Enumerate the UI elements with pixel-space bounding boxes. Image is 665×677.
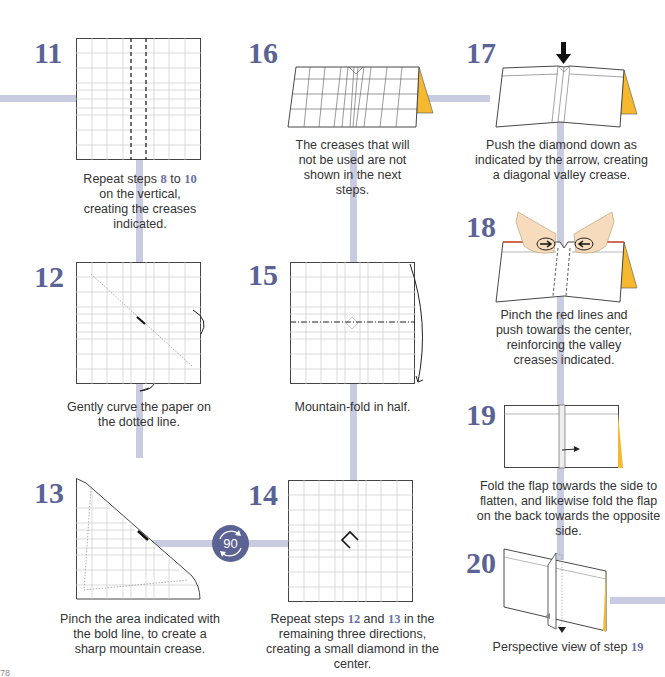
step-18-caption: Pinch the red lines and push towards the… bbox=[494, 308, 634, 368]
step-number-19: 19 bbox=[466, 400, 496, 430]
rotate-90-badge: 90 bbox=[212, 525, 249, 562]
step-13-diagram bbox=[76, 478, 201, 600]
step-number-14: 14 bbox=[248, 480, 278, 510]
page-number: 78 bbox=[0, 668, 10, 677]
step-11-diagram bbox=[76, 38, 201, 160]
step-number-20: 20 bbox=[466, 548, 496, 578]
step-15-diagram bbox=[290, 262, 415, 384]
step-number-17: 17 bbox=[466, 38, 496, 68]
step-19-diagram bbox=[504, 405, 634, 469]
step-12-diagram bbox=[76, 262, 201, 384]
step-12-caption: Gently curve the paper on the dotted lin… bbox=[64, 400, 214, 430]
step-20-diagram bbox=[504, 549, 616, 634]
step-13-caption: Pinch the area indicated with the bold l… bbox=[60, 612, 220, 657]
step-number-12: 12 bbox=[34, 262, 64, 292]
connector-in bbox=[0, 95, 76, 102]
step-11-caption: Repeat steps 8 to 10 on the vertical, cr… bbox=[76, 172, 204, 232]
step-16-caption: The creases that will not be used are no… bbox=[290, 138, 415, 198]
step-18-diagram bbox=[496, 212, 642, 304]
step-14-caption: Repeat steps 12 and 13 in the remaining … bbox=[255, 612, 450, 672]
push-arrow-icon bbox=[556, 42, 571, 64]
step-number-18: 18 bbox=[466, 212, 496, 242]
step-number-13: 13 bbox=[34, 478, 64, 508]
step-17-caption: Push the diamond down as indicated by th… bbox=[474, 138, 649, 183]
step-15-caption: Mountain-fold in half. bbox=[285, 400, 420, 415]
step-14-diagram bbox=[288, 480, 413, 602]
step-number-15: 15 bbox=[248, 260, 278, 290]
step-number-16: 16 bbox=[248, 38, 278, 68]
step-20-caption: Perspective view of step 19 bbox=[488, 640, 648, 655]
step-19-caption: Fold the flap towards the side to flatte… bbox=[476, 479, 661, 539]
connector-out bbox=[610, 597, 665, 604]
step-16-diagram bbox=[288, 65, 433, 130]
step-number-11: 11 bbox=[34, 38, 62, 68]
step-17-diagram bbox=[496, 42, 642, 128]
rotate-badge-label: 90 bbox=[212, 536, 249, 551]
